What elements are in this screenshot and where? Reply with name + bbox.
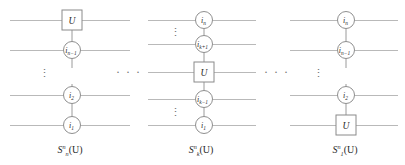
vertical-ellipsis: ⋮ — [313, 67, 324, 79]
caption-argument: (U) — [199, 144, 213, 155]
caption-middle: Snk(U) — [142, 143, 260, 157]
circuit-left-canvas: U in−1 ⋮ i2 i1 — [6, 0, 134, 140]
gate-label-u: U — [343, 121, 351, 131]
circuit-middle: in ⋮ ik+1 U ik−1 ⋮ i1 Snk(U) — [142, 0, 260, 165]
caption-superscript: n — [62, 143, 65, 150]
caption-right: Sn1(U) — [288, 143, 402, 157]
caption-argument: (U) — [69, 144, 83, 155]
vertical-ellipsis: ⋮ — [170, 26, 181, 38]
caption-superscript: n — [337, 143, 340, 150]
gate-label-u: U — [69, 16, 77, 26]
caption-superscript: n — [194, 143, 197, 150]
vertical-ellipsis: ⋮ — [39, 67, 50, 79]
circuit-right: in in−1 ⋮ i2 U Sn1(U) — [288, 0, 402, 165]
horizontal-ellipsis-left: · · · — [116, 66, 142, 78]
circuit-left: U in−1 ⋮ i2 i1 Snn(U) — [6, 0, 134, 165]
vertical-ellipsis: ⋮ — [170, 106, 181, 118]
circuit-right-canvas: in in−1 ⋮ i2 U — [288, 0, 402, 140]
quantum-circuit-figure: U in−1 ⋮ i2 i1 Snn(U) · · · — [0, 0, 405, 165]
caption-argument: (U) — [344, 144, 358, 155]
horizontal-ellipsis-right: · · · — [264, 66, 290, 78]
caption-left: Snn(U) — [6, 143, 134, 157]
gate-label-u: U — [201, 68, 209, 78]
circuit-middle-canvas: in ⋮ ik+1 U ik−1 ⋮ i1 — [142, 0, 260, 140]
